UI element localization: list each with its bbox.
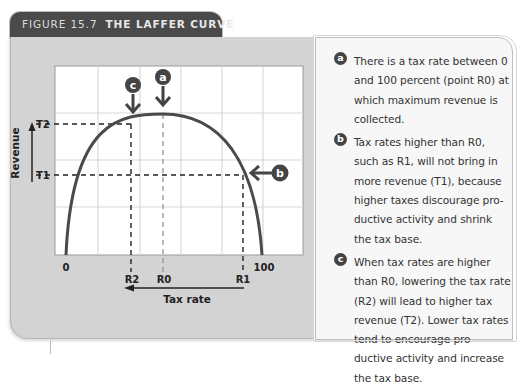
tick-0: 0 <box>63 262 70 273</box>
arrow-left-icon <box>124 285 134 292</box>
tick-r0: R0 <box>157 274 172 285</box>
x-axis-label: Tax rate <box>163 293 211 305</box>
svg-text:b: b <box>276 167 284 180</box>
arrow-up-icon <box>29 122 36 131</box>
tick-100: 100 <box>254 262 275 273</box>
tick-t2: T2 <box>36 119 50 130</box>
svg-text:a: a <box>159 71 166 84</box>
svg-text:c: c <box>130 79 137 92</box>
tick-t1: T1 <box>36 170 50 181</box>
y-axis-label: Revenue <box>9 127 21 178</box>
tick-r2: R2 <box>125 274 140 285</box>
tick-r1: R1 <box>236 274 251 285</box>
